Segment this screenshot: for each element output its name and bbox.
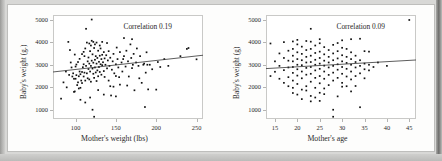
data-point [93,77,95,79]
data-point [332,59,334,61]
data-point [83,51,85,53]
data-point [310,48,312,50]
data-point [355,75,357,77]
data-point [159,66,161,68]
data-point [319,38,321,40]
data-point [117,67,119,69]
data-point [106,68,108,70]
data-point [85,28,87,30]
data-point [337,77,339,79]
data-point [105,64,107,66]
data-point [93,116,95,118]
data-point [314,87,316,89]
data-point [296,75,298,77]
data-point [279,65,281,67]
data-point [332,109,334,111]
data-point [88,79,90,81]
data-point [138,65,140,67]
data-point [314,97,316,99]
data-point [323,88,325,90]
data-point [97,50,99,52]
data-point [323,46,325,48]
data-point [350,38,352,40]
scatter-panel-mothers-weight: 10002000300040005000100150200250Correlat… [8,5,221,151]
data-point [80,73,82,75]
data-point [70,62,72,64]
data-point [84,80,86,82]
data-point [355,67,357,69]
data-point [92,41,94,43]
data-point [77,82,79,84]
data-point [296,39,298,41]
data-point [305,67,307,69]
data-point [314,70,316,72]
data-point [108,80,110,82]
data-point [87,77,89,79]
data-point [337,50,339,52]
data-point [139,55,141,57]
data-point [292,72,294,74]
data-point [288,85,290,87]
data-point [81,82,83,84]
data-point [101,54,103,56]
data-point [180,55,182,57]
data-point [83,63,85,65]
data-point [122,71,124,73]
page-gutter-left [0,0,5,161]
data-point [328,56,330,58]
data-point [368,70,370,72]
scatter-plot-area [8,5,221,151]
data-point [92,109,94,111]
data-point [274,71,276,73]
data-point [292,80,294,82]
data-point [328,62,330,64]
data-point [84,48,86,50]
data-point [310,73,312,75]
data-point [323,78,325,80]
data-point [80,87,82,89]
data-point [145,72,147,74]
data-point [66,87,68,89]
data-point [79,58,81,60]
data-point [113,53,115,55]
data-point [76,74,78,76]
data-point [131,38,133,40]
data-point [368,64,370,66]
data-point [96,42,98,44]
data-point [301,77,303,79]
data-point [323,53,325,55]
data-point [117,58,119,60]
data-point [119,51,121,53]
data-point [305,62,307,64]
data-point [84,72,86,74]
data-point [113,86,115,88]
data-point [126,85,128,87]
data-point [133,53,135,55]
data-point [131,67,133,69]
data-point [67,41,69,43]
data-point [87,61,89,63]
data-point [118,76,120,78]
data-point [323,93,325,95]
data-point [283,82,285,84]
data-point [283,69,285,71]
data-point [341,47,343,49]
data-point [76,64,78,66]
data-point [364,50,366,52]
data-point [89,97,91,99]
data-point [305,85,307,87]
data-point [85,65,87,67]
data-point [337,58,339,60]
y-axis-label: Baby's weight (g) [233,46,241,99]
data-point [83,76,85,78]
data-point [73,91,75,93]
data-point [75,66,77,68]
data-point [99,71,101,73]
data-point [134,89,136,91]
data-point [128,76,130,78]
data-point [301,89,303,91]
data-point [76,84,78,86]
data-point [270,75,272,77]
data-point [119,84,121,86]
data-point [319,63,321,65]
